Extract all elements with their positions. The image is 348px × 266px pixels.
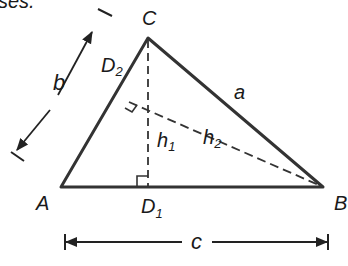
- right-angle-d1-icon: [137, 176, 148, 187]
- side-b-label: b: [53, 70, 65, 95]
- dimension-b-tick-bottom: [11, 152, 24, 161]
- vertex-c-label: C: [142, 7, 157, 29]
- foot-d2-label: D2: [101, 54, 123, 79]
- triangle-diagram: ses. C A B D2 D1 h1 h2 a b c: [0, 0, 348, 266]
- caption-fragment: ses.: [0, 0, 35, 12]
- right-angle-d2-icon: [125, 105, 137, 112]
- foot-d1-label: D1: [141, 195, 163, 221]
- dimension-b-tick-top: [98, 9, 112, 16]
- side-a-label: a: [234, 81, 245, 103]
- side-c-label: c: [191, 229, 202, 254]
- altitude-h1-label: h1: [157, 129, 175, 154]
- dimension-b-lower: [17, 110, 50, 150]
- vertex-a-label: A: [35, 192, 49, 214]
- vertex-b-label: B: [334, 192, 347, 214]
- altitude-h2-label: h2: [203, 126, 222, 151]
